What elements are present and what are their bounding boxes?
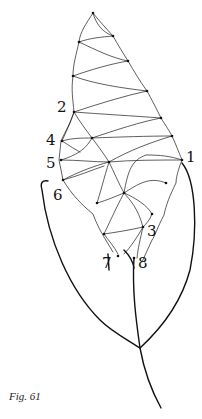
leaf-diagram: 1 2 3 4 5 6 7 8 — [0, 0, 202, 419]
net-points — [60, 12, 184, 260]
leaf-outline-left — [41, 181, 140, 348]
label-4: 4 — [46, 131, 56, 149]
label-3: 3 — [147, 222, 157, 240]
leaf-stem — [133, 258, 161, 408]
net-lines — [59, 13, 182, 262]
label-7: 7 — [102, 254, 112, 272]
label-6: 6 — [53, 186, 63, 204]
figure-caption: Fig. 61 — [9, 390, 41, 402]
leaf-outline-right — [140, 163, 195, 348]
label-1: 1 — [186, 148, 196, 166]
label-5: 5 — [46, 154, 56, 172]
label-2: 2 — [57, 98, 67, 116]
label-8: 8 — [138, 254, 148, 272]
